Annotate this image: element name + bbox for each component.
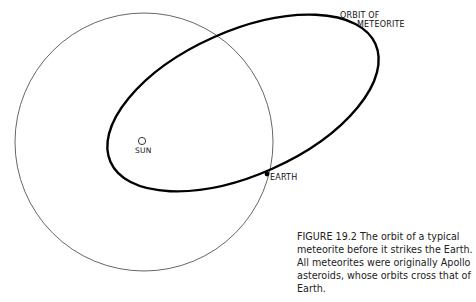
caption-line: FIGURE 19.2 The orbit of a typical [297,230,475,243]
caption-line: Earth. [297,282,475,295]
meteorite-orbit-ellipse [81,0,404,228]
earth-label: EARTH [270,173,297,182]
orbit-label-line2: METEORITE [357,20,405,29]
sun-icon [138,137,145,144]
earth-dot-icon [265,172,270,177]
orbit-label-line1: ORBIT OF [340,11,380,20]
caption-line: All meteorites were originally Apollo [297,256,475,269]
earth-orbit-circle [15,13,273,271]
sun-label: SUN [135,146,151,155]
caption-line: meteorite before it strikes the Earth. [297,243,475,256]
caption-line: asteroids, whose orbits cross that of [297,269,475,282]
figure-caption: FIGURE 19.2 The orbit of a typical meteo… [297,230,475,295]
